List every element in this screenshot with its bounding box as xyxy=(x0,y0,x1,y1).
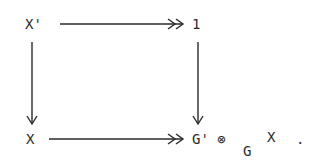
tensor-subscript: G xyxy=(243,144,251,158)
tensor-right-factor: X xyxy=(267,130,275,144)
node-x: X xyxy=(26,132,34,146)
tensor-left-factor: G' xyxy=(192,132,209,146)
arrow-left-down xyxy=(27,42,37,124)
terminator-period: . xyxy=(296,132,304,146)
node-one: 1 xyxy=(192,17,200,31)
arrow-right-down xyxy=(193,42,203,124)
node-x-prime: X' xyxy=(25,17,42,31)
arrow-top-epi xyxy=(60,19,183,29)
arrow-bottom-epi xyxy=(49,134,183,144)
tensor-operator: ⊗ xyxy=(217,132,225,146)
